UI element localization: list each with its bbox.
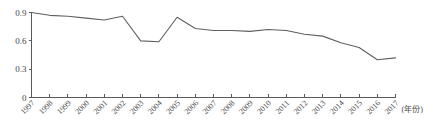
- x-tick-label: 2005: [164, 99, 182, 117]
- x-tick-label: 2017: [383, 99, 401, 117]
- y-axis-tick-labels: 00.30.60.9: [15, 8, 27, 103]
- x-tick-label: 1998: [37, 99, 55, 117]
- y-tick-label: 0.6: [15, 36, 27, 46]
- chart-axes: [32, 13, 396, 98]
- data-series-line: [32, 13, 396, 60]
- chart-canvas: 00.30.60.9 19971998199920002001200220032…: [0, 0, 440, 139]
- x-tick-label: 2016: [365, 99, 383, 117]
- x-tick-label: 2002: [110, 99, 128, 117]
- y-tick-label: 0.9: [15, 8, 27, 18]
- y-tick-label: 0.3: [15, 64, 27, 74]
- x-tick-label: 2007: [201, 99, 219, 117]
- line-chart-figure: 00.30.60.9 19971998199920002001200220032…: [0, 0, 440, 139]
- x-axis-tick-marks: [32, 94, 396, 98]
- x-tick-label: 2010: [255, 99, 273, 117]
- x-tick-label: 2001: [92, 99, 110, 117]
- x-tick-label: 2011: [274, 99, 291, 116]
- x-tick-label: 2015: [346, 99, 364, 117]
- x-tick-label: 2003: [128, 99, 146, 117]
- x-axis-tick-labels: 1997199819992000200120022003200420052006…: [19, 99, 401, 117]
- x-tick-label: 2009: [237, 99, 255, 117]
- x-tick-label: 2008: [219, 99, 237, 117]
- x-tick-label: 2004: [146, 99, 164, 117]
- x-tick-label: 2012: [292, 99, 310, 117]
- x-tick-label: 2014: [328, 99, 346, 117]
- x-tick-label: 2006: [183, 99, 201, 117]
- x-tick-label: 2013: [310, 99, 328, 117]
- x-axis-caption: (年份): [402, 104, 424, 114]
- x-tick-label: 2000: [73, 99, 91, 117]
- x-tick-label: 1999: [55, 99, 73, 117]
